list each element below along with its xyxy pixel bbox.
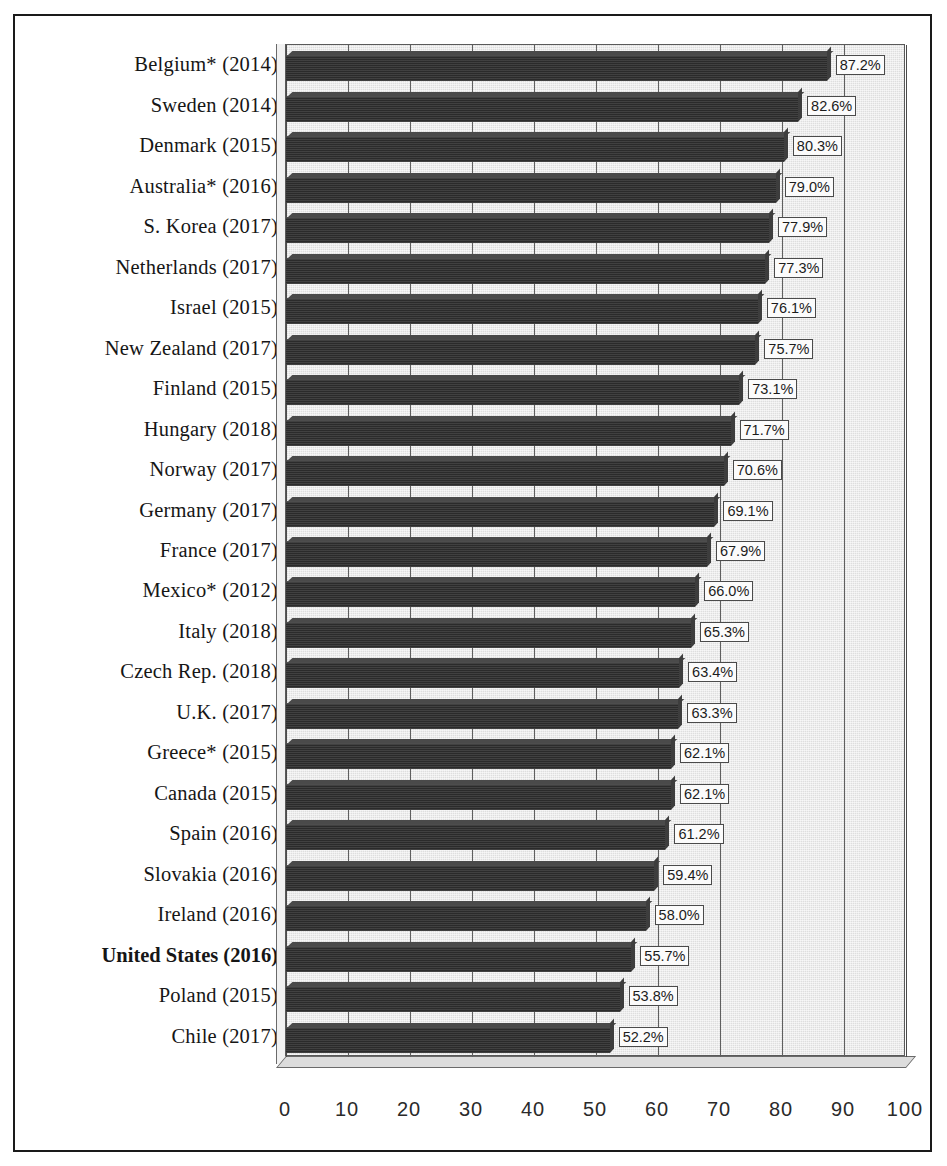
bar-value-label: 67.9% xyxy=(716,541,765,561)
bar xyxy=(286,618,691,648)
bar-front-face xyxy=(286,541,707,567)
gridline xyxy=(844,45,845,1057)
bar-front-face xyxy=(286,905,646,931)
x-tick-label: 10 xyxy=(335,1098,359,1121)
x-tick-label: 50 xyxy=(583,1098,607,1121)
category-label: Czech Rep. (2018) xyxy=(20,661,278,682)
bar xyxy=(286,335,755,365)
bar-end-cap xyxy=(695,573,699,607)
bar xyxy=(286,132,784,162)
category-axis: Belgium* (2014)Sweden (2014)Denmark (201… xyxy=(20,44,278,1084)
x-tick-label: 30 xyxy=(459,1098,483,1121)
bar-value-label: 52.2% xyxy=(619,1027,668,1047)
bar xyxy=(286,780,671,810)
bar-front-face xyxy=(286,581,695,607)
bar-end-cap xyxy=(798,87,802,121)
bar-front-face xyxy=(286,177,776,203)
x-tick-label: 0 xyxy=(279,1098,291,1121)
x-axis: 0102030405060708090100 xyxy=(270,1098,930,1130)
bar xyxy=(286,173,776,203)
bar-end-cap xyxy=(654,856,658,890)
bar-end-cap xyxy=(755,330,759,364)
gridline xyxy=(906,45,907,1057)
bar xyxy=(286,942,631,972)
bar xyxy=(286,92,798,122)
bar xyxy=(286,982,620,1012)
bar-value-label: 77.3% xyxy=(774,258,823,278)
bar-value-label: 77.9% xyxy=(778,217,827,237)
bar-end-cap xyxy=(758,290,762,324)
category-label: Hungary (2018) xyxy=(20,419,278,440)
category-label: Ireland (2016) xyxy=(20,904,278,925)
bar-end-cap xyxy=(665,816,669,850)
bar-value-label: 63.3% xyxy=(687,703,736,723)
bar-front-face xyxy=(286,460,724,486)
x-tick-label: 80 xyxy=(769,1098,793,1121)
bar-value-label: 53.8% xyxy=(629,986,678,1006)
bar-end-cap xyxy=(691,614,695,648)
bar-front-face xyxy=(286,865,654,891)
category-label: New Zealand (2017) xyxy=(20,338,278,359)
bar-front-face xyxy=(286,824,665,850)
bar-front-face xyxy=(286,662,679,688)
bar-value-label: 87.2% xyxy=(836,55,885,75)
category-label: Canada (2015) xyxy=(20,783,278,804)
bar-value-label: 63.4% xyxy=(688,662,737,682)
bar-front-face xyxy=(286,703,678,729)
bar-value-label: 69.1% xyxy=(723,501,772,521)
bar xyxy=(286,294,758,324)
bar xyxy=(286,254,765,284)
bar xyxy=(286,537,707,567)
bar-end-cap xyxy=(678,694,682,728)
bar-front-face xyxy=(286,420,731,446)
bar xyxy=(286,51,827,81)
x-tick-label: 20 xyxy=(397,1098,421,1121)
bar xyxy=(286,861,654,891)
bar xyxy=(286,901,646,931)
bar xyxy=(286,375,739,405)
bar-end-cap xyxy=(620,978,624,1012)
bar-end-cap xyxy=(707,533,711,567)
bar xyxy=(286,820,665,850)
bar-end-cap xyxy=(679,654,683,688)
category-label: Australia* (2016) xyxy=(20,176,278,197)
bar xyxy=(286,739,671,769)
bar-front-face xyxy=(286,55,827,81)
x-tick-label: 60 xyxy=(645,1098,669,1121)
bar-end-cap xyxy=(671,735,675,769)
category-label: France (2017) xyxy=(20,540,278,561)
bar-front-face xyxy=(286,622,691,648)
bar xyxy=(286,577,695,607)
category-label: United States (2016) xyxy=(20,945,278,966)
bar-value-label: 75.7% xyxy=(764,339,813,359)
chart-figure: Belgium* (2014)Sweden (2014)Denmark (201… xyxy=(0,0,947,1166)
bar-value-label: 65.3% xyxy=(700,622,749,642)
bar xyxy=(286,699,678,729)
bar xyxy=(286,213,769,243)
category-label: Italy (2018) xyxy=(20,621,278,642)
bar-front-face xyxy=(286,258,765,284)
bar-end-cap xyxy=(739,371,743,405)
bar-front-face xyxy=(286,136,784,162)
bar-value-label: 62.1% xyxy=(680,743,729,763)
bar-end-cap xyxy=(765,249,769,283)
category-label: Poland (2015) xyxy=(20,985,278,1006)
bar-front-face xyxy=(286,743,671,769)
category-label: Netherlands (2017) xyxy=(20,257,278,278)
category-label: S. Korea (2017) xyxy=(20,216,278,237)
bar-end-cap xyxy=(646,897,650,931)
x-tick-label: 40 xyxy=(521,1098,545,1121)
x-tick-label: 90 xyxy=(831,1098,855,1121)
bar-value-label: 71.7% xyxy=(740,420,789,440)
bar-value-label: 62.1% xyxy=(680,784,729,804)
category-label: Chile (2017) xyxy=(20,1026,278,1047)
bar-front-face xyxy=(286,1027,610,1053)
bar-front-face xyxy=(286,501,714,527)
plot-area: 87.2%82.6%80.3%79.0%77.9%77.3%76.1%75.7%… xyxy=(270,36,920,1096)
category-label: Israel (2015) xyxy=(20,297,278,318)
bar-value-label: 70.6% xyxy=(733,460,782,480)
bar-value-label: 76.1% xyxy=(767,298,816,318)
bar-front-face xyxy=(286,946,631,972)
bar-end-cap xyxy=(784,128,788,162)
bar-value-label: 82.6% xyxy=(807,96,856,116)
